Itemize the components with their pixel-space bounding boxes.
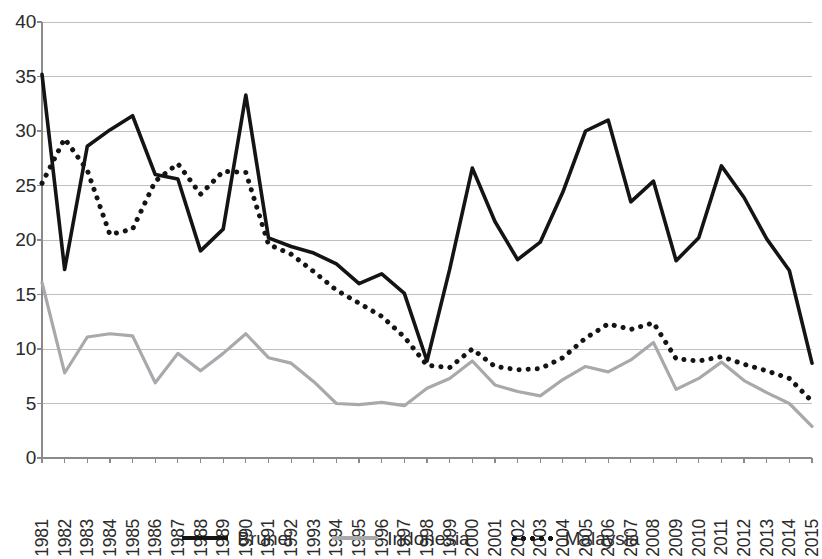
y-axis-tick-15: 15 bbox=[4, 285, 36, 304]
y-axis-tick-30: 30 bbox=[4, 121, 36, 140]
legend-item-malaysia[interactable]: Malaysia bbox=[510, 529, 640, 548]
y-axis-tick-35: 35 bbox=[4, 67, 36, 86]
legend-item-indonesia[interactable]: Indonesia bbox=[332, 529, 469, 548]
y-axis-tick-labels: 4035302520151050 bbox=[0, 0, 36, 470]
line-chart: 4035302520151050 19811982198319841985198… bbox=[0, 0, 822, 559]
legend-swatch-bar bbox=[182, 536, 228, 541]
y-axis-tick-5: 5 bbox=[4, 394, 36, 413]
legend-swatch-bar bbox=[332, 536, 378, 540]
legend-label-malaysia: Malaysia bbox=[565, 529, 640, 548]
legend-label-brunei: Brunei bbox=[237, 529, 292, 548]
legend-swatch-brunei-icon bbox=[182, 531, 228, 545]
y-axis-tick-25: 25 bbox=[4, 176, 36, 195]
chart-legend: BruneiIndonesiaMalaysia bbox=[0, 523, 822, 553]
legend-swatch-indonesia-icon bbox=[332, 531, 378, 545]
x-axis-tick-labels: 1981198219831984198519861987198819891990… bbox=[0, 461, 822, 519]
legend-swatch-bar bbox=[510, 536, 556, 541]
y-axis-tick-40: 40 bbox=[4, 12, 36, 31]
gridlines bbox=[42, 22, 812, 404]
legend-item-brunei[interactable]: Brunei bbox=[182, 529, 292, 548]
series-line-brunei bbox=[42, 74, 812, 363]
y-axis-tick-10: 10 bbox=[4, 339, 36, 358]
legend-label-indonesia: Indonesia bbox=[387, 529, 469, 548]
y-axis-tick-20: 20 bbox=[4, 230, 36, 249]
legend-swatch-malaysia-icon bbox=[510, 531, 556, 545]
